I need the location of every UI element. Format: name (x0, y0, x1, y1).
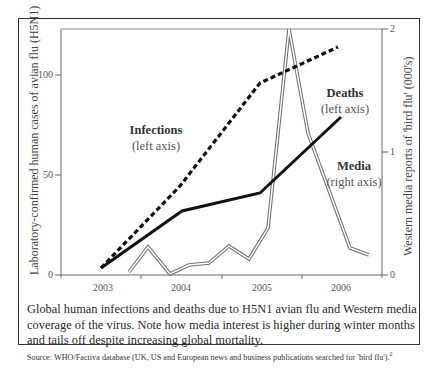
right-axis-title: Western media reports of 'bird flu' (000… (401, 57, 415, 256)
media-sublabel: (right axis) (326, 175, 381, 189)
infections-label: Infections (130, 123, 183, 137)
footnote-marker: 2 (390, 351, 393, 357)
right-tick-0: 0 (390, 269, 395, 280)
deaths-sublabel: (left axis) (321, 102, 369, 116)
left-ticks: 100 50 0 (38, 69, 61, 280)
right-ticks: 2 1 0 (382, 23, 395, 280)
left-tick-50: 50 (43, 169, 53, 180)
left-tick-0: 0 (48, 269, 53, 280)
right-tick-1: 1 (390, 146, 395, 157)
infections-series (101, 47, 338, 268)
source-text: Source: WHO/Factiva database (UK, US and… (27, 352, 390, 361)
chart: 100 50 0 2 1 0 2003 2004 2005 2006 Labor… (0, 0, 440, 300)
x-label-2005: 2005 (252, 282, 272, 293)
left-axis-title: Laboratory-confirmed human cases of avia… (27, 6, 41, 275)
figure-caption: Global human infections and deaths due t… (27, 302, 417, 362)
infections-sublabel: (left axis) (132, 139, 180, 153)
right-tick-2: 2 (390, 23, 395, 34)
deaths-label: Deaths (327, 86, 364, 100)
x-ticks: 2003 2004 2005 2006 (93, 275, 351, 293)
media-label: Media (337, 159, 372, 173)
caption-source: Source: WHO/Factiva database (UK, US and… (27, 349, 417, 363)
x-label-2004: 2004 (171, 282, 191, 293)
caption-text: Global human infections and deaths due t… (27, 302, 417, 347)
x-label-2006: 2006 (331, 282, 351, 293)
x-label-2003: 2003 (93, 282, 113, 293)
